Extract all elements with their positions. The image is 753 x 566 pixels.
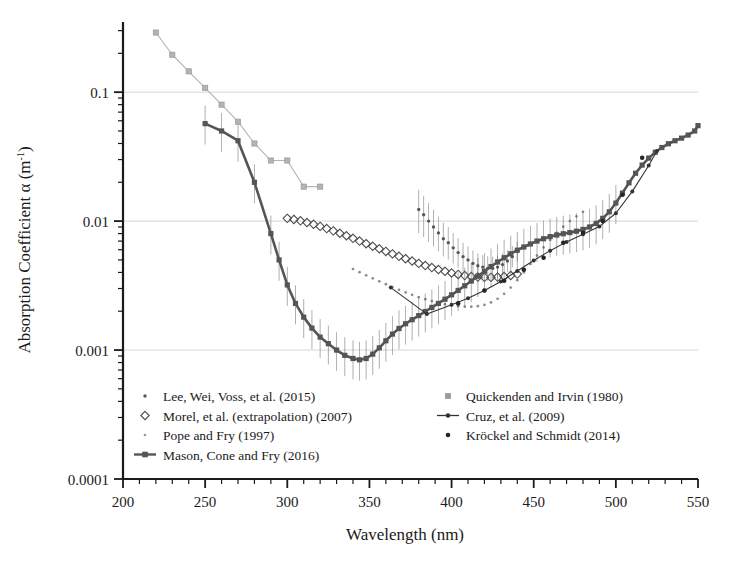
data-point (597, 224, 601, 228)
legend-item-1[interactable]: Morel, et al. (extrapolation) (2007) (141, 409, 352, 424)
data-point (471, 262, 474, 265)
chart-canvas: 2002503003504004505005500.00010.0010.010… (0, 0, 753, 566)
data-point (452, 246, 455, 249)
data-point (534, 238, 539, 243)
data-point (630, 189, 634, 193)
data-point (462, 283, 467, 288)
data-point (548, 234, 553, 239)
data-point (672, 138, 677, 143)
x-tick-label: 250 (194, 494, 217, 510)
legend-marker (445, 393, 450, 398)
legend-item-0[interactable]: Lee, Wei, Voss, et al. (2015) (143, 389, 315, 404)
data-point (495, 259, 500, 264)
data-point (626, 180, 631, 185)
data-point (301, 184, 306, 189)
data-point (646, 156, 651, 161)
data-point (301, 315, 306, 320)
data-point (358, 271, 361, 274)
data-point (370, 352, 375, 357)
data-point (469, 278, 474, 283)
data-point (357, 357, 362, 362)
x-tick-label: 500 (605, 494, 628, 510)
legend-item-4[interactable]: Quickenden and Irvin (1980) (445, 389, 623, 404)
data-point (203, 85, 208, 90)
data-point (410, 317, 415, 322)
data-point (326, 341, 331, 346)
data-point (268, 231, 273, 236)
data-point (509, 286, 512, 289)
figure-background (0, 0, 753, 566)
y-tick-label: 0.0001 (68, 472, 109, 488)
data-point (503, 292, 506, 295)
x-tick-label: 450 (522, 494, 545, 510)
legend-item-6[interactable]: Kröckel and Schmidt (2014) (446, 428, 620, 443)
data-point (482, 288, 487, 293)
data-point (285, 158, 290, 163)
data-point (429, 305, 434, 310)
data-point (447, 241, 450, 244)
data-point (390, 331, 395, 336)
data-point (647, 163, 651, 167)
legend-label: Cruz, et al. (2009) (466, 409, 565, 424)
data-point (686, 132, 691, 137)
data-point (692, 128, 697, 133)
y-tick-label: 0.1 (90, 85, 109, 101)
data-point (466, 296, 470, 300)
data-point (411, 293, 414, 296)
data-point (482, 269, 487, 274)
data-point (371, 277, 374, 280)
legend-item-2[interactable]: Pope and Fry (1997) (144, 428, 275, 443)
data-point (427, 219, 430, 222)
data-point (614, 211, 618, 215)
data-point (640, 155, 645, 160)
data-point (502, 255, 507, 260)
data-point (352, 268, 355, 271)
data-point (417, 208, 420, 211)
data-point (561, 231, 566, 236)
legend-label: Lee, Wei, Voss, et al. (2015) (163, 389, 315, 404)
svg-text:Absorption Coefficient α (m-1): Absorption Coefficient α (m-1) (15, 146, 34, 353)
data-point (655, 149, 659, 153)
data-point (436, 301, 441, 306)
absorption-coefficient-figure: 2002503003504004505005500.00010.0010.010… (0, 0, 753, 566)
data-point (389, 286, 393, 290)
data-point (633, 171, 638, 176)
data-point (659, 145, 664, 150)
data-point (600, 219, 605, 224)
data-point (561, 240, 566, 245)
legend-marker-dot (446, 413, 451, 418)
data-point (695, 123, 700, 128)
x-tick-label: 550 (687, 494, 710, 510)
legend-label: Pope and Fry (1997) (163, 428, 274, 443)
data-point (449, 292, 454, 297)
data-point (456, 288, 461, 293)
data-point (456, 251, 459, 254)
data-point (442, 237, 445, 240)
data-point (153, 30, 158, 35)
data-point (235, 119, 240, 124)
data-point (521, 244, 526, 249)
data-point (364, 356, 369, 361)
data-point (679, 136, 684, 141)
data-point (567, 230, 572, 235)
data-point (532, 258, 536, 262)
y-tick-label: 0.001 (75, 343, 109, 359)
data-point (403, 321, 408, 326)
data-point (334, 347, 339, 352)
data-point (502, 278, 507, 283)
data-point (293, 301, 298, 306)
data-point (186, 69, 191, 74)
data-point (574, 229, 579, 234)
data-point (342, 353, 347, 358)
data-point (516, 279, 519, 282)
data-point (548, 249, 552, 253)
data-point (470, 305, 473, 308)
data-point (528, 241, 533, 246)
legend-marker (446, 433, 451, 438)
data-point (318, 335, 323, 340)
data-point (581, 231, 586, 236)
data-point (450, 303, 454, 307)
data-point (416, 313, 421, 318)
data-point (396, 326, 401, 331)
data-point (496, 297, 499, 300)
